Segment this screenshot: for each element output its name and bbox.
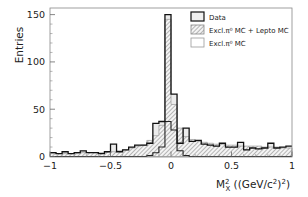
x-axis-label: M2X ((GeV/c2)2) xyxy=(216,178,290,193)
legend: Data Excl.π⁰ MC + Lepto MC Excl.π⁰ MC xyxy=(191,12,289,48)
legend-label-excl: Excl.π⁰ MC xyxy=(209,40,246,48)
x-tick-label: −1 xyxy=(43,160,57,171)
x-tick-label: −0.5 xyxy=(99,160,122,171)
y-axis-label: Entries xyxy=(13,27,25,64)
x-tick-label: 0.5 xyxy=(224,160,239,171)
y-tick-label: 50 xyxy=(33,104,45,115)
legend-swatch-excl xyxy=(191,38,204,47)
legend-item-excl-lepto: Excl.π⁰ MC + Lepto MC xyxy=(191,25,289,35)
x-tick-label: 0 xyxy=(168,160,174,171)
y-tick-label: 150 xyxy=(27,9,45,20)
x-tick-label: 1 xyxy=(289,160,295,171)
legend-item-excl: Excl.π⁰ MC xyxy=(191,38,246,48)
y-tick-label: 100 xyxy=(27,56,45,67)
legend-swatch-data xyxy=(191,12,204,21)
plot-area xyxy=(50,15,292,157)
legend-label-excl-lepto: Excl.π⁰ MC + Lepto MC xyxy=(209,27,289,35)
legend-swatch-hatched xyxy=(191,25,204,34)
legend-item-data: Data xyxy=(191,12,226,22)
histogram-chart: 050100150−1−0.500.51 Entries M2X ((GeV/c… xyxy=(0,0,308,197)
legend-label-data: Data xyxy=(209,14,226,22)
